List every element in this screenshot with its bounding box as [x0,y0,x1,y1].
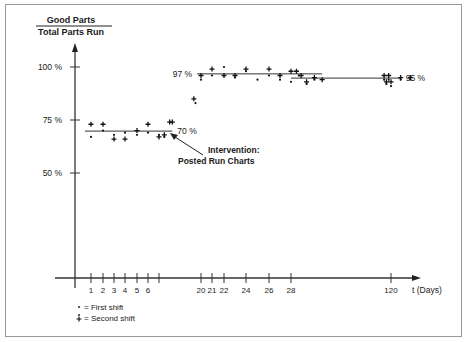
second-shift-point [112,137,117,142]
second-shift-point [157,134,162,139]
second-shift-point [146,122,151,127]
y-axis-arrow-icon [72,43,78,52]
second-shift-point [289,69,294,74]
first-shift-point [194,102,196,104]
x-tick-label: 3 [112,286,117,295]
second-shift-point [210,67,215,72]
first-shift-point [279,79,281,81]
x-tick-label: 120 [384,286,398,295]
second-shift-point [101,122,106,127]
first-shift-point [113,134,115,136]
first-shift-point [90,136,92,138]
intervention-annotation: Intervention: Posted Run Charts [170,133,260,166]
legend-first-shift-label: = First shift [84,303,124,312]
legend: = First shift = Second shift [77,303,136,323]
first-shift-point [256,79,258,81]
first-shift-point [290,81,292,83]
first-shift-point [211,74,213,76]
y-tick-label: 50 % [43,168,63,178]
x-tick-label: 2 [101,286,106,295]
second-shift-plus-icon [77,317,82,322]
data-points [89,66,413,142]
reference-line-label: 70 % [177,126,197,136]
y-label-numerator: Good Parts [47,15,96,25]
first-shift-point [136,134,138,136]
second-shift-point [312,75,317,80]
x-tick-label: 28 [287,286,296,295]
x-tick-label: 1 [89,286,94,295]
second-shift-point [398,75,403,80]
first-shift-dot-icon-stacked [78,314,80,316]
second-shift-point [386,73,391,78]
y-ticks: 100 %75 %50 % [38,62,80,178]
first-shift-point [223,66,225,68]
second-shift-point [304,79,309,84]
reference-line-label: 97 % [173,69,193,79]
first-shift-point [147,132,149,134]
first-shift-point [390,85,392,87]
annotation-line-2: Posted Run Charts [178,156,255,166]
first-shift-dot-icon [78,306,80,308]
first-shift-point [268,74,270,76]
y-label-denominator: Total Parts Run [38,27,104,37]
x-tick-label: 6 [146,286,151,295]
x-axis-label: t (Days) [412,285,442,295]
x-tick-label: 4 [123,286,128,295]
legend-second-shift-label: = Second shift [84,314,136,323]
second-shift-point [294,69,299,74]
y-axis [72,43,78,288]
x-axis [55,275,421,281]
x-tick-label: 21 [208,286,217,295]
legend-second-shift: = Second shift [77,314,136,323]
first-shift-point [200,79,202,81]
x-tick-label: 20 [197,286,206,295]
second-shift-point [162,132,167,137]
second-shift-point [170,120,175,125]
second-shift-point [89,122,94,127]
second-shift-point [267,67,272,72]
legend-first-shift: = First shift [78,303,124,312]
x-tick-label: 5 [135,286,140,295]
run-chart: Good Parts Total Parts Run 100 %75 %50 %… [0,0,469,342]
y-tick-label: 100 % [38,62,63,72]
second-shift-point [191,96,196,101]
first-shift-point [383,79,385,81]
second-shift-point [244,67,249,72]
first-shift-point [102,130,104,132]
first-shift-point [388,79,390,81]
x-tick-label: 26 [265,286,274,295]
annotation-line-1: Intervention: [208,145,260,155]
x-ticks: 123456202122242628120 [89,273,398,295]
x-tick-label: 24 [242,286,251,295]
second-shift-point [123,137,128,142]
x-axis-arrow-icon [412,275,421,281]
second-shift-point [382,73,387,78]
second-shift-point [135,128,140,133]
reference-lines: 70 %97 %95 % [85,69,425,136]
first-shift-point [124,132,126,134]
y-tick-label: 75 % [43,115,63,125]
x-tick-label: 22 [220,286,229,295]
